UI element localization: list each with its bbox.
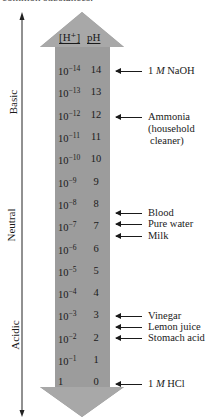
- ph-row: 10−55: [0, 265, 216, 281]
- ph-value: 11: [87, 131, 105, 142]
- ph-value: 10: [87, 153, 105, 164]
- h-concentration-value: 10−6: [58, 243, 76, 256]
- ph-value: 8: [87, 198, 105, 209]
- ph-row: 10−1010: [0, 153, 216, 169]
- ph-value: 0: [87, 376, 105, 387]
- ph-row: 10−44: [0, 287, 216, 303]
- h-concentration-value: 10−5: [58, 265, 76, 278]
- h-concentration-value: 10−11: [58, 131, 80, 144]
- header-ph: pH: [87, 31, 100, 43]
- substance-label: 1 M NaOH: [116, 65, 195, 77]
- left-arrow-icon: [116, 117, 142, 118]
- ph-row: 10−88: [0, 198, 216, 214]
- left-arrow-icon: [116, 236, 142, 237]
- ph-value: 6: [87, 243, 105, 254]
- ph-row: 10−11: [0, 354, 216, 370]
- arrow-head-top: [40, 12, 124, 47]
- left-arrow-icon: [116, 316, 142, 317]
- substance-label: Stomach acid: [116, 332, 205, 344]
- ph-row: 10−99: [0, 176, 216, 192]
- ph-value: 14: [87, 64, 105, 75]
- ph-value: 7: [87, 220, 105, 231]
- h-concentration-value: 10−1: [58, 354, 76, 367]
- header-h-concentration: [H⁺]: [59, 31, 80, 44]
- left-arrow-icon: [116, 224, 142, 225]
- ph-value: 13: [87, 86, 105, 97]
- ph-row: 10−1313: [0, 86, 216, 102]
- substance-label: Ammonia(householdcleaner): [116, 111, 195, 147]
- h-concentration-value: 10−2: [58, 332, 76, 345]
- left-arrow-icon: [116, 213, 142, 214]
- h-concentration-value: 10−13: [58, 86, 80, 99]
- left-arrow-icon: [116, 338, 142, 339]
- h-concentration-value: 10−7: [58, 220, 76, 233]
- ph-row: 10−66: [0, 243, 216, 259]
- ph-value: 1: [87, 354, 105, 365]
- ph-value: 3: [87, 309, 105, 320]
- h-concentration-value: 10−3: [58, 309, 76, 322]
- h-concentration-value: 1: [58, 376, 63, 387]
- ph-value: 9: [87, 176, 105, 187]
- h-concentration-value: 10−8: [58, 198, 76, 211]
- ph-value: 5: [87, 265, 105, 276]
- substance-label: Milk: [116, 230, 168, 242]
- h-concentration-value: 10−14: [58, 64, 80, 77]
- left-arrow-icon: [116, 327, 142, 328]
- h-concentration-value: 10−4: [58, 287, 76, 300]
- h-concentration-value: 10−12: [58, 109, 80, 122]
- axis-down-arrow-icon: [20, 410, 25, 417]
- left-arrow-icon: [116, 71, 142, 72]
- substance-label: Pure water: [116, 218, 193, 230]
- substance-label: 1 M HCl: [116, 378, 185, 390]
- h-concentration-value: 10−9: [58, 176, 76, 189]
- ph-value: 12: [87, 109, 105, 120]
- ph-value: 2: [87, 332, 105, 343]
- h-concentration-value: 10−10: [58, 153, 80, 166]
- left-arrow-icon: [116, 384, 142, 385]
- axis-up-arrow-icon: [20, 12, 25, 20]
- ph-value: 4: [87, 287, 105, 298]
